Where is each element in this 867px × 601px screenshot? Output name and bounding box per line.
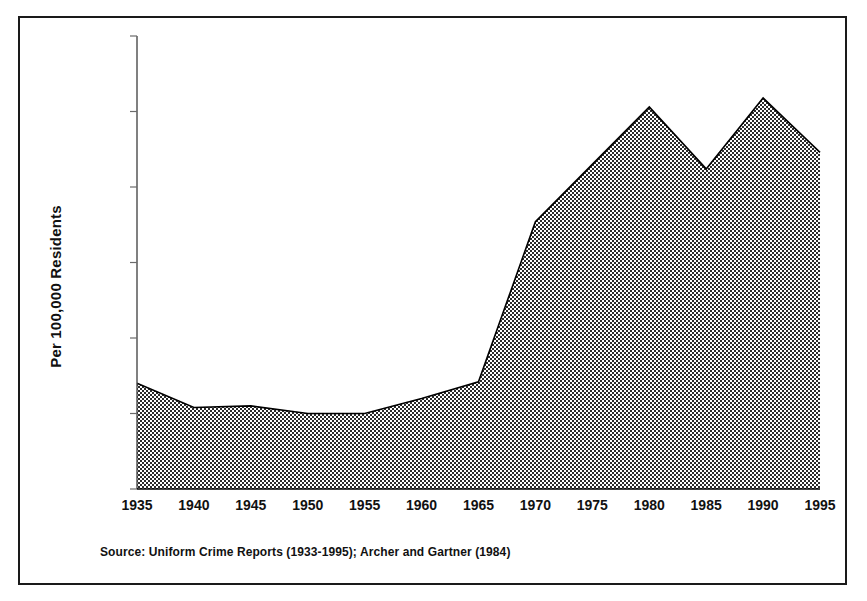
- x-tick-label: 1970: [520, 497, 551, 513]
- x-tick-label: 1945: [235, 497, 266, 513]
- x-tick-label: 1950: [292, 497, 323, 513]
- x-tick-label: 1935: [121, 497, 152, 513]
- x-tick-label: 1985: [691, 497, 722, 513]
- x-tick-label: 1990: [748, 497, 779, 513]
- x-tick-label: 1960: [406, 497, 437, 513]
- x-tick-label: 1975: [577, 497, 608, 513]
- x-tick-label: 1965: [463, 497, 494, 513]
- source-note: Source: Uniform Crime Reports (1933-1995…: [100, 545, 510, 559]
- x-tick-label: 1980: [634, 497, 665, 513]
- y-axis-tick-labels: 050100150200250300: [0, 0, 128, 601]
- x-tick-label: 1940: [178, 497, 209, 513]
- x-tick-label: 1955: [349, 497, 380, 513]
- x-tick-label: 1995: [804, 497, 835, 513]
- series-area-fill: [137, 98, 820, 489]
- area-chart: Per 100,000 Residents 050100150200250300…: [0, 0, 867, 601]
- y-axis-tick-marks: [130, 36, 137, 489]
